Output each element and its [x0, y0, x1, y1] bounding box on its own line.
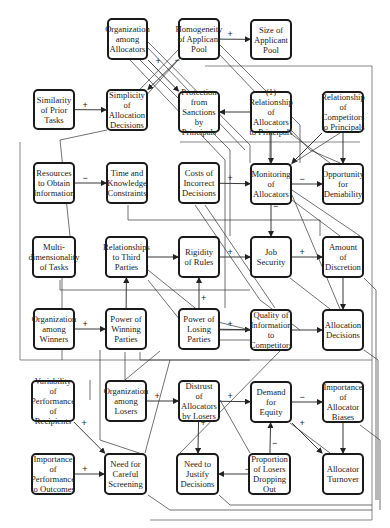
node-proportion: Proportion of Losers Dropping Out — [248, 453, 291, 495]
node-label: Costs of Incorrect Decisions — [182, 168, 216, 198]
node-monitoring: Monitoring of Allocators — [250, 163, 292, 205]
node-protection: Protection from Sanctions by Principals — [178, 91, 220, 133]
node-label: Simplicity of Allocation Decisions — [109, 90, 145, 130]
node-distrust: Distrust of Allocators by Losers — [178, 380, 220, 422]
edge-sign: + — [299, 418, 304, 428]
node-multidim: Multi- dimensionality of Tasks — [32, 236, 76, 278]
node-homog: Homogeneity of Applicant Pool — [178, 18, 220, 60]
node-deniability: Opportunity for Deniability — [322, 163, 364, 205]
node-power-win: Power of Winning Parties — [105, 308, 147, 350]
node-variability: Variability of Performance of Recipients — [31, 380, 75, 422]
node-importance-perf: Importance of Performance to Outcomes — [31, 453, 75, 495]
node-org-alloc: Organization among Allocators — [107, 18, 148, 60]
node-job: Job Security — [250, 236, 292, 278]
node-discretion: Amount of Discretion — [322, 236, 364, 278]
node-org-win: Organization among Winners — [33, 308, 75, 350]
edge-sign: + — [82, 319, 87, 329]
node-label: Monitoring of Allocators — [251, 169, 290, 199]
node-org-lose: Organization among Losers — [105, 380, 147, 422]
node-rigidity: Rigidity of Rules — [178, 236, 220, 278]
edge-sign: + — [227, 247, 232, 257]
node-label: Demand for Equity — [254, 387, 288, 417]
node-label: Amount of Discretion — [325, 242, 361, 272]
node-resources: Resources to Obtain Information — [33, 162, 75, 204]
edge-sign: + — [299, 247, 304, 257]
node-label: Rigidity of Rules — [182, 247, 216, 267]
node-biases: Importance of Allocator Biases — [322, 381, 364, 423]
node-label: Variability of Performance of Recipients — [31, 376, 75, 426]
node-time: Time and Knowledge Constraints — [106, 162, 148, 204]
node-demand: Demand for Equity — [250, 381, 292, 423]
causal-diagram: +−+++++−+−++−−++++−++− — [0, 0, 390, 528]
edge-proportion-to-demand — [270, 423, 271, 453]
node-label: Proportion of Losers Dropping Out — [251, 454, 288, 494]
node-label: Importance of Performance to Outcomes — [31, 454, 75, 494]
node-costs: Costs of Incorrect Decisions — [178, 162, 220, 204]
node-label: Relationships to Third Parties — [103, 242, 150, 272]
node-screening: Need for Careful Screening — [104, 453, 147, 495]
node-alloc-dec: Allocation Decisions — [322, 309, 364, 351]
edge-sign: − — [272, 438, 277, 448]
node-label: Relationship of Competitors to Principal… — [321, 92, 364, 132]
edge-sign: − — [299, 392, 304, 402]
node-label: Distrust of Allocators by Losers — [181, 381, 217, 421]
node-label: Need to Justify Decisions — [180, 459, 215, 489]
node-label: Allocation Decisions — [325, 320, 361, 340]
node-quality: Quality of Information to Competitors — [250, 309, 292, 351]
node-label: Organization among Winners — [32, 314, 77, 344]
node-label: Need for Careful Screening — [108, 459, 143, 489]
node-label: (1) Relationship of Allocators to Princi… — [249, 87, 292, 137]
edge-sign: + — [83, 100, 88, 110]
edge-sign: + — [227, 29, 232, 39]
node-label: Size of Applicant Pool — [254, 25, 288, 55]
node-label: Organization among Losers — [104, 386, 149, 416]
edge-sign: − — [83, 173, 88, 183]
node-rel-alloc: (1) Relationship of Allocators to Princi… — [250, 91, 292, 133]
node-turnover: Allocator Turnover — [322, 453, 364, 495]
node-label: Importance of Allocator Biases — [323, 382, 362, 422]
node-label: Organization among Allocators — [105, 24, 150, 54]
edge-sign: + — [82, 464, 87, 474]
node-similarity: Similarity of Prior Tasks — [33, 89, 75, 130]
node-power-lose: Power of Losing Parties — [178, 308, 220, 350]
node-rel-comp: Relationship of Competitors to Principal… — [322, 91, 364, 133]
node-third: Relationships to Third Parties — [105, 236, 148, 278]
edge-sign: + — [201, 293, 206, 303]
node-label: Time and Knowledge Constraints — [107, 168, 147, 198]
node-label: Resources to Obtain Information — [33, 168, 74, 198]
edge-distrust-to-justify — [198, 422, 199, 453]
node-label: Quality of Information to Competitors — [250, 310, 293, 350]
node-justify: Need to Justify Decisions — [176, 453, 219, 495]
node-label: Job Security — [254, 247, 288, 267]
edge-sign: + — [81, 418, 86, 428]
node-label: Allocator Turnover — [326, 464, 360, 484]
node-label: Multi- dimensionality of Tasks — [28, 242, 79, 272]
node-label: Power of Winning Parties — [109, 314, 143, 344]
node-label: Protection from Sanctions by Principals — [181, 87, 216, 137]
node-size: Size of Applicant Pool — [250, 19, 292, 60]
node-label: Similarity of Prior Tasks — [37, 95, 71, 125]
node-label: Homogeneity of Applicant Pool — [176, 24, 223, 54]
node-label: Opportunity for Deniability — [322, 169, 364, 199]
node-simplicity: Simplicity of Allocation Decisions — [106, 89, 148, 131]
edge-sign: − — [299, 174, 304, 184]
node-label: Power of Losing Parties — [182, 314, 216, 344]
